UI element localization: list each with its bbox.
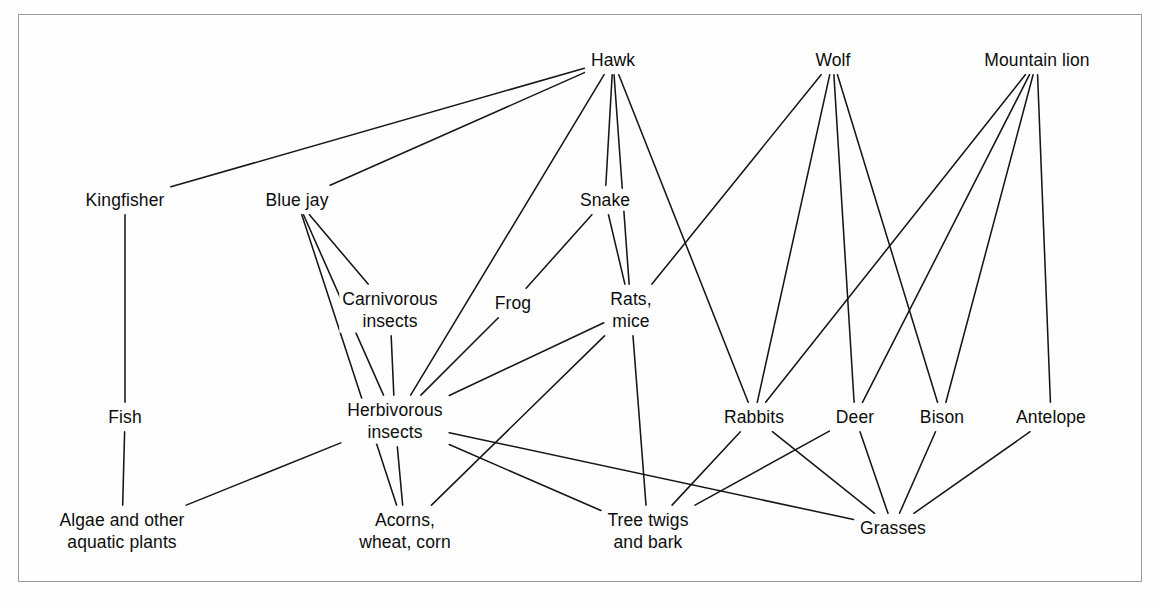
node-herbins: Herbivorous insects — [344, 399, 445, 444]
node-antelope: Antelope — [1013, 406, 1089, 428]
diagram-frame — [18, 14, 1142, 582]
node-algae: Algae and other aquatic plants — [56, 509, 187, 554]
node-mountainlion: Mountain lion — [981, 49, 1092, 71]
node-hawk: Hawk — [588, 49, 638, 71]
node-rabbits: Rabbits — [721, 406, 787, 428]
node-wolf: Wolf — [812, 49, 853, 71]
food-web-figure: KingfisherBlue jayHawkWolfMountain lionS… — [0, 0, 1158, 610]
node-fish: Fish — [105, 406, 144, 428]
node-ratsmice: Rats, mice — [607, 288, 654, 333]
node-bison: Bison — [917, 406, 967, 428]
node-frog: Frog — [492, 292, 534, 314]
node-treetwigs: Tree twigs and bark — [604, 509, 691, 554]
node-grasses: Grasses — [857, 517, 929, 539]
node-snake: Snake — [577, 189, 633, 211]
node-bluejay: Blue jay — [262, 189, 331, 211]
node-carnins: Carnivorous insects — [339, 288, 440, 333]
node-kingfisher: Kingfisher — [83, 189, 168, 211]
node-acorns: Acorns, wheat, corn — [356, 509, 454, 554]
node-deer: Deer — [833, 406, 877, 428]
